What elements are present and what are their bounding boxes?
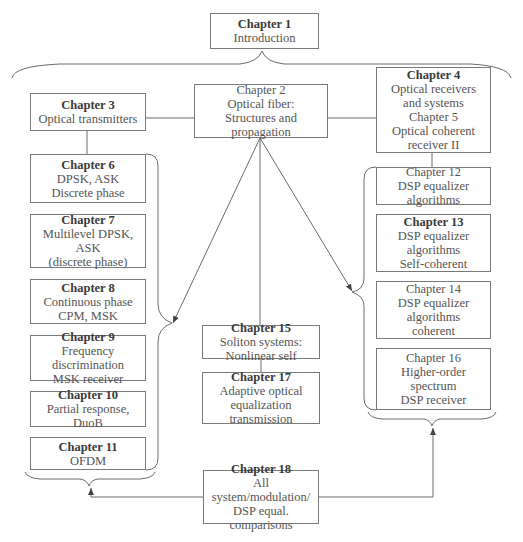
chapter-desc: Discrete phase [51,186,124,200]
left-bottom-brace [25,472,155,486]
chapter-desc: algorithms [407,310,460,324]
chapter-14-box: Chapter 14 DSP equalizer algorithms cohe… [376,281,491,339]
chapter-desc: Frequency discrimination [31,344,145,372]
chapter-16-box: Chapter 16 Higher-order spectrum DSP rec… [376,348,491,410]
chapter-title: Chapter 1 [238,17,292,31]
chapter-title: Chapter 3 [61,98,115,112]
chapter-18-box: Chapter 18 All system/modulation/ DSP eq… [203,470,319,524]
chapter-10-box: Chapter 10 Partial response, DuoB [30,391,146,427]
chapter-desc: Structures and propagation [195,111,327,139]
chapter-6-box: Chapter 6 DPSK, ASK Discrete phase [30,154,146,203]
chapter-desc: Partial response, DuoB [31,402,145,430]
chapter-desc: Nonlinear self [225,349,296,363]
chapter-desc: DSP equalizer [398,296,469,310]
chapter-desc: Soliton systems: [220,335,302,349]
chapter-desc: Higher-order spectrum [377,365,490,393]
chapter-title: Chapter 5 [409,110,458,124]
chapter-title: Chapter 18 [231,462,291,476]
chapter-title: Chapter 10 [58,388,118,402]
right-bottom-brace [368,412,496,426]
chapter-desc: DSP equalizer [398,229,469,243]
chapter-title: Chapter 9 [61,330,115,344]
chapter-11-box: Chapter 11 OFDM [30,437,146,470]
chapter-title: Chapter 12 [406,165,461,179]
right-group-brace [352,167,376,410]
chapter-desc: Optical receivers [391,82,476,96]
chapter-9-box: Chapter 9 Frequency discrimination MSK r… [30,335,146,381]
chapter-title: Chapter 2 [237,83,286,97]
chapter-desc: Introduction [234,31,296,45]
chapter-desc: Optical transmitters [39,112,138,126]
chapter-12-box: Chapter 12 DSP equalizer algorithms [376,167,491,205]
chapter-title: Chapter 14 [406,282,461,296]
chapter-desc: All system/modulation/ [204,476,318,504]
chapter-title: Chapter 17 [231,370,291,384]
chapter-8-box: Chapter 8 Continuous phase CPM, MSK [30,279,146,324]
chapter-desc: Optical fiber: [228,97,295,111]
left-group-brace [146,154,172,470]
chapter-desc: Self-coherent [400,257,467,271]
chapter-desc: DPSK, ASK [57,172,120,186]
chapter-desc: CPM, MSK [58,309,118,323]
chapter-7-box: Chapter 7 Multilevel DPSK, ASK (discrete… [30,214,146,268]
chapter-4-5-box: Chapter 4 Optical receivers and systems … [376,67,491,153]
chapter-title: Chapter 16 [406,351,461,365]
chapter-desc: DSP receiver [401,393,467,407]
chapter-title: Chapter 4 [407,68,461,82]
chapter-desc: DSP equal. comparisons [204,504,318,532]
chapter-title: Chapter 11 [58,440,117,454]
chapter-desc: Adaptive optical [220,384,303,398]
chapter-15-box: Chapter 15 Soliton systems: Nonlinear se… [202,325,320,359]
chapter-desc: (discrete phase) [49,255,128,269]
chapter-3-box: Chapter 3 Optical transmitters [30,93,146,131]
chapter-title: Chapter 15 [231,321,291,335]
chapter-title: Chapter 13 [404,215,464,229]
chapter-title: Chapter 6 [61,158,115,172]
chapter-desc: and systems [403,96,464,110]
chapter-17-box: Chapter 17 Adaptive optical equalization… [202,372,320,424]
chapter-desc: coherent [412,324,455,338]
chapter-desc: equalization transmission [203,398,319,426]
chapter-2-box: Chapter 2 Optical fiber: Structures and … [194,84,328,138]
chapter-desc: OFDM [70,454,106,468]
chapter-title: Chapter 7 [61,213,115,227]
chapter-desc: algorithms [407,243,460,257]
chapter-title: Chapter 8 [61,281,115,295]
chapter-desc: Optical coherent [392,124,475,138]
chapter-desc: MSK receiver [53,372,123,386]
chapter-1-box: Chapter 1 Introduction [210,13,319,49]
chapter-desc: Continuous phase [43,295,132,309]
chapter-desc: Multilevel DPSK, ASK [31,227,145,255]
chapter-desc: receiver II [408,138,460,152]
chapter-desc: DSP equalizer algorithms [377,179,490,207]
chapter-13-box: Chapter 13 DSP equalizer algorithms Self… [376,214,491,272]
